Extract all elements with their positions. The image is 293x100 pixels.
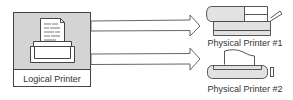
physical-printer-2-label: Physical Printer #2 (207, 84, 282, 94)
logical-printer-node: Logical Printer (14, 13, 91, 87)
arrow-to-printer-1 (91, 15, 200, 36)
laser-printer-icon (207, 7, 283, 36)
arrow-to-printer-2 (91, 48, 200, 70)
physical-printer-1-label: Physical Printer #1 (207, 38, 282, 48)
logical-printer-label: Logical Printer (23, 74, 81, 84)
diagram-canvas: Logical Printer Physical Printer #1 Phys… (0, 0, 293, 100)
dot-matrix-printer-icon (208, 50, 274, 79)
